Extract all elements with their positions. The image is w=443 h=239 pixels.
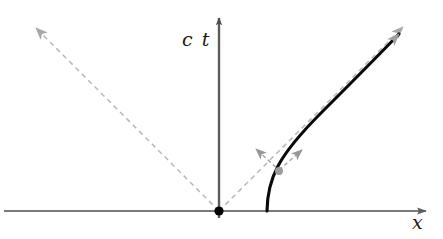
light-ray-right [219, 27, 403, 211]
hyperbolic-worldline [267, 34, 399, 211]
ct-axis-label: c t [182, 28, 211, 50]
event-point-on-worldline [275, 167, 283, 175]
spacetime-diagram-figure: c t x [0, 0, 443, 239]
origin-dot [214, 206, 223, 215]
x-axis-label: x [412, 211, 423, 233]
light-ray-left [36, 28, 219, 211]
diagram-canvas [0, 0, 443, 239]
